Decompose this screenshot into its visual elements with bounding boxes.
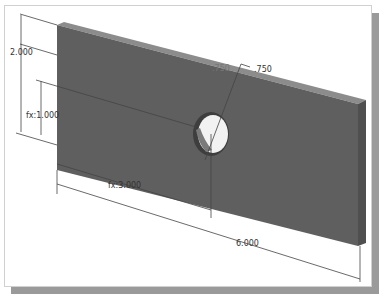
dim-hole-diameter-label: .750 [254,65,272,74]
cad-drawing: 2.000 fx:1.000 fx:3.000 6.000 .750 .750 [0,0,387,300]
plate-side-edge [358,100,366,246]
dim-hole-horizontal-label: fx:3.000 [108,181,141,190]
hole-interior [198,115,228,153]
dim-length-label: 6.000 [236,239,259,248]
dim-height-label: 2.000 [10,48,33,57]
dim-height [16,14,57,145]
dim-hole-diameter-ghost-label: .750 [212,64,230,73]
dim-hole-vertical-label: fx:1.000 [26,111,59,120]
